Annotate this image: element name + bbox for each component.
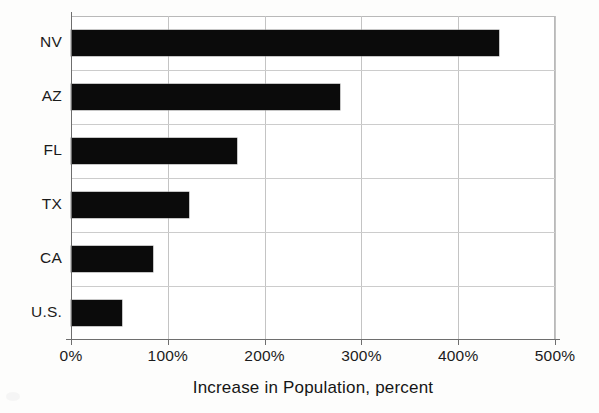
bar[interactable] [71,300,122,326]
bar-band [71,178,555,232]
x-axis-tick-label: 200% [244,347,284,365]
scan-artifact [6,392,20,401]
y-axis-category-labels: NVAZFLTXCAU.S. [0,16,62,340]
x-axis-tick [458,340,459,345]
x-axis-tick-label: 500% [535,347,575,365]
x-axis-tick-label: 300% [341,347,381,365]
bar[interactable] [71,138,237,164]
bar[interactable] [71,30,499,56]
x-axis-tick [361,340,362,345]
x-axis-tick-label: 400% [438,347,478,365]
y-axis-category-label: TX [0,195,72,213]
y-axis-category-label: FL [0,141,72,159]
x-axis-tick-label: 100% [148,347,188,365]
x-axis-line [66,339,560,340]
x-axis-tick [168,340,169,345]
y-axis-line [71,12,72,344]
bar[interactable] [71,84,340,110]
y-axis-category-label: NV [0,33,72,51]
bar[interactable] [71,246,153,272]
bar-band [71,124,555,178]
y-axis-category-label: CA [0,249,72,267]
y-axis-category-label: U.S. [0,303,72,321]
x-axis-tick [265,340,266,345]
x-axis-tick-label: 0% [60,347,83,365]
x-axis-tick-labels: 0%100%200%300%400%500% [71,347,555,369]
bar-band [71,232,555,286]
bar-band [71,286,555,340]
y-axis-category-label: AZ [0,87,72,105]
bar-band [71,70,555,124]
plot-area [71,16,555,340]
chart-screenshot: NVAZFLTXCAU.S. 0%100%200%300%400%500% In… [0,0,599,413]
x-axis-tick [555,340,556,345]
x-axis-title: Increase in Population, percent [71,378,555,398]
bar-band [71,16,555,70]
x-gridline [555,16,556,340]
bar[interactable] [71,192,189,218]
